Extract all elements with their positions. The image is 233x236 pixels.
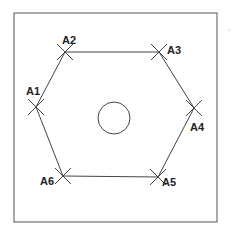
label-a6: A6	[40, 176, 54, 187]
cross-mark-a4	[186, 100, 202, 116]
label-a5: A5	[162, 177, 176, 188]
label-a4: A4	[190, 122, 204, 133]
hexagon	[36, 52, 194, 177]
center-circle	[98, 102, 130, 134]
cross-marks	[28, 44, 202, 185]
cross-mark-a1	[28, 99, 44, 115]
diagram-canvas	[0, 0, 233, 236]
label-a2: A2	[62, 35, 76, 46]
label-a1: A1	[26, 86, 40, 97]
label-a3: A3	[167, 45, 181, 56]
stray-dot	[228, 29, 229, 30]
frame-border	[14, 13, 217, 222]
